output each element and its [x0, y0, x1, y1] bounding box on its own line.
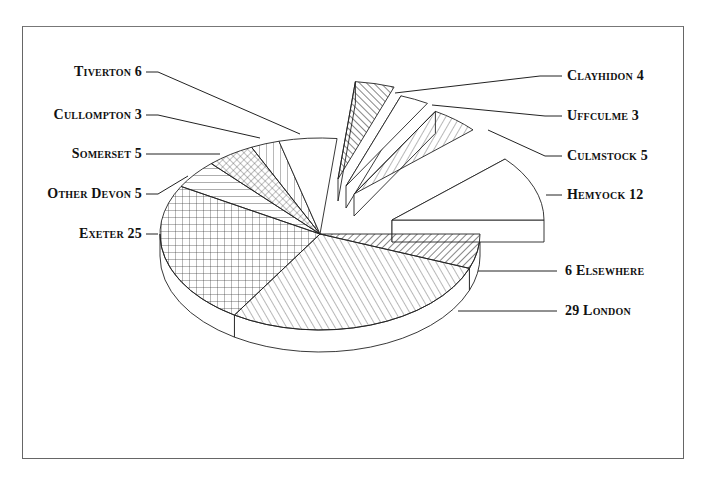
pie-slice-hemyock [392, 159, 544, 220]
label-somerset: Somerset 5 [72, 146, 142, 162]
label-london: 29 London [565, 303, 631, 319]
label-hemyock: Hemyock 12 [567, 187, 644, 203]
leader-line-culmstock [488, 130, 562, 156]
label-clayhidon: Clayhidon 4 [567, 68, 644, 84]
label-tiverton: Tiverton 6 [74, 64, 142, 80]
leader-line-tiverton [146, 72, 300, 134]
label-culmstock: Culmstock 5 [567, 148, 648, 164]
pie-tops [160, 82, 544, 330]
label-cullompton: Cullompton 3 [54, 107, 142, 123]
leader-line-cullompton [146, 115, 260, 138]
leader-line-clayhidon [395, 76, 562, 93]
label-exeter: Exeter 25 [79, 226, 142, 242]
label-elsewhere: 6 Elsewhere [565, 263, 644, 279]
leader-line-uffculme [432, 105, 562, 116]
label-uffculme: Uffculme 3 [567, 108, 639, 124]
label-other-devon: Other Devon 5 [47, 186, 142, 202]
